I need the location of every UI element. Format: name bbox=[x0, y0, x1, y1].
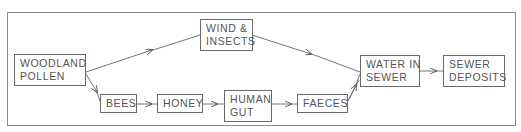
node-faeces: FAECES bbox=[297, 94, 348, 113]
edge-faeces-to-water bbox=[348, 74, 360, 101]
node-label: SEWER bbox=[449, 58, 499, 71]
node-label: HONEY bbox=[163, 97, 197, 110]
node-human-gut: HUMAN GUT bbox=[224, 90, 272, 122]
node-label: INSECTS bbox=[206, 35, 247, 48]
node-label: FAECES bbox=[303, 97, 342, 110]
node-label: POLLEN bbox=[20, 70, 80, 83]
edge-wind-to-water bbox=[252, 35, 360, 72]
node-label: BEES bbox=[106, 97, 131, 110]
edge-pollen-to-bees bbox=[86, 74, 100, 101]
node-water-in-sewer: WATER IN SEWER bbox=[360, 55, 420, 87]
edge-pollen-to-wind bbox=[86, 35, 200, 72]
node-label: GUT bbox=[230, 106, 266, 119]
node-label: WOODLAND bbox=[20, 57, 80, 70]
node-label: HUMAN bbox=[230, 93, 266, 106]
node-honey: HONEY bbox=[157, 94, 203, 113]
node-label: DEPOSITS bbox=[449, 71, 499, 84]
node-wind-insects: WIND & INSECTS bbox=[200, 19, 253, 51]
node-bees: BEES bbox=[100, 94, 137, 113]
node-sewer-deposits: SEWER DEPOSITS bbox=[443, 55, 505, 87]
node-label: WIND & bbox=[206, 22, 247, 35]
node-label: SEWER bbox=[366, 71, 414, 84]
node-label: WATER IN bbox=[366, 58, 414, 71]
node-woodland-pollen: WOODLAND POLLEN bbox=[14, 54, 86, 86]
